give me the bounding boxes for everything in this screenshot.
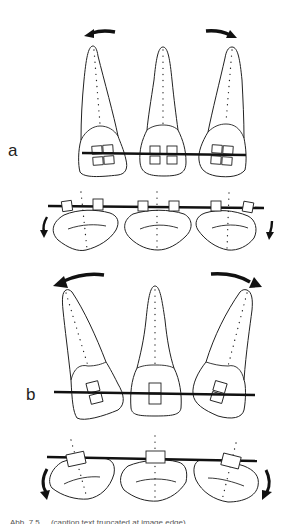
- curved-arrow-right: [262, 470, 272, 500]
- crown-a-left: [53, 210, 118, 250]
- figure-caption-truncated: Abb. 7.5 ... (caption text truncated at …: [10, 518, 290, 524]
- panel-b-occlusal: [40, 436, 272, 502]
- archwire: [48, 206, 264, 208]
- tooth-a-middle: [140, 47, 186, 176]
- panel-a-occlusal: [40, 192, 274, 251]
- crown-b-middle: [121, 460, 187, 501]
- panel-label-b: b: [26, 386, 35, 403]
- curved-arrow-left: [40, 469, 50, 500]
- orthodontic-diagram: [0, 0, 293, 524]
- rotation-arrow-left-large: [53, 274, 104, 288]
- crown-a-right: [196, 211, 256, 251]
- rotation-arrow-right-large: [211, 274, 262, 288]
- panel-label-a: a: [8, 142, 17, 159]
- panel-b-frontal: [53, 274, 262, 419]
- downward-arrow-left: [40, 217, 48, 238]
- crown-a-middle: [125, 210, 191, 250]
- rotation-arrow-left: [84, 29, 115, 38]
- rotation-arrow-right: [206, 30, 237, 38]
- panel-a-frontal: [79, 29, 246, 177]
- downward-arrow-right: [266, 221, 274, 240]
